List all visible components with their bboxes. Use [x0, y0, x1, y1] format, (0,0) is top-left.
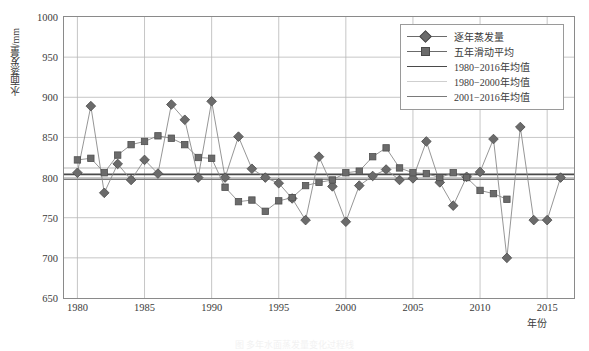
legend-label: 逐年蒸发量	[454, 29, 504, 44]
marker-1-17	[302, 182, 308, 188]
x-tick-1980: 1980	[57, 302, 97, 313]
marker-0-35	[542, 215, 552, 225]
marker-1-29	[463, 174, 469, 180]
marker-0-12	[234, 132, 244, 142]
marker-0-28	[448, 201, 458, 211]
legend-item-0[interactable]: 逐年蒸发量	[407, 29, 557, 44]
marker-1-22	[369, 153, 375, 159]
marker-1-3	[114, 152, 120, 158]
legend-key-icon	[407, 45, 447, 58]
marker-1-21	[356, 168, 362, 174]
marker-0-34	[529, 215, 539, 225]
marker-1-6	[155, 133, 161, 139]
marker-1-5	[141, 138, 147, 144]
x-tick-2005: 2005	[393, 302, 433, 313]
marker-0-1	[86, 101, 96, 111]
marker-1-14	[262, 208, 268, 214]
legend-key-icon	[407, 30, 447, 43]
marker-1-18	[316, 179, 322, 185]
legend-key-icon	[407, 90, 447, 103]
x-tick-1995: 1995	[259, 302, 299, 313]
marker-1-7	[168, 135, 174, 141]
marker-1-15	[276, 198, 282, 204]
chart-legend: 逐年蒸发量五年滑动平均1980−2016年均值1980−2000年均值2001−…	[400, 24, 564, 110]
marker-1-23	[383, 145, 389, 151]
marker-1-16	[289, 194, 295, 200]
marker-1-24	[396, 165, 402, 171]
marker-1-8	[182, 141, 188, 147]
marker-1-19	[329, 177, 335, 183]
marker-1-11	[222, 184, 228, 190]
x-tick-2010: 2010	[460, 302, 500, 313]
marker-1-27	[437, 174, 443, 180]
marker-0-24	[395, 175, 405, 185]
legend-label: 1980−2000年均值	[454, 74, 530, 89]
marker-1-10	[208, 155, 214, 161]
marker-0-2	[99, 188, 109, 198]
legend-label: 2001−2016年均值	[454, 89, 530, 104]
marker-1-31	[490, 190, 496, 196]
marker-0-10	[207, 96, 217, 106]
legend-item-4[interactable]: 2001−2016年均值	[407, 89, 557, 104]
legend-key-icon	[407, 60, 447, 73]
marker-0-32	[502, 253, 512, 263]
marker-1-25	[410, 170, 416, 176]
marker-1-1	[88, 155, 94, 161]
marker-1-28	[450, 170, 456, 176]
marker-0-21	[354, 181, 364, 191]
marker-0-33	[516, 122, 526, 132]
x-tick-2015: 2015	[527, 302, 567, 313]
marker-0-31	[489, 134, 499, 144]
legend-label: 1980−2016年均值	[454, 59, 530, 74]
marker-1-4	[128, 141, 134, 147]
legend-key-icon	[407, 75, 447, 88]
marker-1-30	[477, 187, 483, 193]
x-tick-1985: 1985	[125, 302, 165, 313]
x-tick-1990: 1990	[192, 302, 232, 313]
marker-0-26	[422, 137, 432, 147]
marker-1-12	[235, 198, 241, 204]
marker-0-20	[341, 217, 351, 227]
marker-1-26	[423, 170, 429, 176]
legend-item-3[interactable]: 1980−2000年均值	[407, 74, 557, 89]
marker-1-0	[74, 157, 80, 163]
marker-1-2	[101, 170, 107, 176]
marker-0-23	[381, 165, 391, 175]
figure-caption: 图 多年水面蒸发量变化过程线	[0, 338, 589, 351]
marker-1-13	[249, 197, 255, 203]
marker-1-32	[504, 196, 510, 202]
marker-1-20	[343, 170, 349, 176]
legend-item-1[interactable]: 五年滑动平均	[407, 44, 557, 59]
legend-label: 五年滑动平均	[454, 44, 514, 59]
x-tick-2000: 2000	[326, 302, 366, 313]
marker-0-17	[301, 215, 311, 225]
marker-0-18	[314, 152, 324, 162]
marker-0-0	[73, 168, 83, 178]
marker-1-9	[195, 154, 201, 160]
legend-item-2[interactable]: 1980−2016年均值	[407, 59, 557, 74]
marker-0-13	[247, 164, 257, 174]
